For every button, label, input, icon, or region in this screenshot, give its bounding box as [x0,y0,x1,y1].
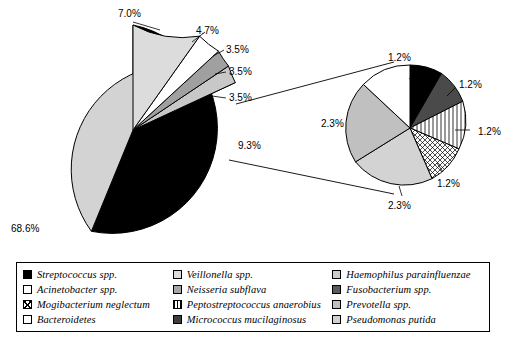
legend-swatch-acinetobacter [23,285,32,294]
sub-pie-value-label: 1.2% [459,79,482,90]
legend-swatch-bacteroidetes [23,315,32,324]
legend-item-bacteroidetes: Bacteroidetes [23,312,173,327]
legend-swatch-neisseria [173,285,182,294]
pie-value-label: 68.6% [11,223,39,234]
legend-item-pseudomonas: Pseudomonas putida [332,312,484,327]
legend-label: Peptostreptococcus anaerobius [187,299,321,310]
pie-value-label: 7.0% [118,8,141,19]
legend-swatch-haemophilus [332,270,341,279]
legend-row: Bacteroidetes Micrococcus mucilaginosus … [23,312,484,327]
legend-swatch-peptostreptococcus [173,300,182,309]
pie-value-label: 3.5% [229,92,252,103]
legend-item-fusobacterium: Fusobacterium spp. [332,282,484,297]
pie-charts-canvas: 7.0% 4.7% 3.5% 3.5% 3.5% 9.3% 68.6% 1.2%… [0,0,517,256]
legend-swatch-streptococcus [23,270,32,279]
legend-row: Mogibacterium neglectum Peptostreptococc… [23,297,484,312]
legend-label: Neisseria subflava [187,284,267,295]
legend-label: Prevotella spp. [346,299,411,310]
legend-swatch-micrococcus [173,315,182,324]
sub-pie-value-label: 1.2% [478,126,501,137]
sub-pie-value-label: 1.2% [388,52,411,63]
legend-item-micrococcus: Micrococcus mucilaginosus [173,312,333,327]
pie-value-label: 3.5% [229,66,252,77]
legend-label: Acinetobacter spp. [37,284,118,295]
legend-item-peptostreptococcus: Peptostreptococcus anaerobius [173,297,333,312]
legend-item-mogibacterium: Mogibacterium neglectum [23,297,173,312]
main-pie [71,25,235,233]
legend-item-prevotella: Prevotella spp. [332,297,484,312]
legend-label: Mogibacterium neglectum [37,299,150,310]
legend-swatch-fusobacterium [332,285,341,294]
sub-pie-value-label: 2.3% [388,200,411,211]
pie-svg [0,0,517,256]
legend-label: Fusobacterium spp. [346,284,431,295]
sub-pie-value-label: 1.2% [437,178,460,189]
sub-pie-value-label: 2.3% [321,118,344,129]
legend-item-acinetobacter: Acinetobacter spp. [23,282,173,297]
legend-swatch-veillonella [173,270,182,279]
legend-label: Micrococcus mucilaginosus [187,314,307,325]
legend-item-veillonella: Veillonella spp. [173,267,333,282]
legend: Streptococcus spp. Veillonella spp. Haem… [16,262,490,332]
legend-item-haemophilus: Haemophilus parainfluenzae [332,267,484,282]
legend-label: Veillonella spp. [187,269,253,280]
legend-label: Haemophilus parainfluenzae [346,269,470,280]
pie-value-label: 3.5% [226,44,249,55]
legend-item-streptococcus: Streptococcus spp. [23,267,173,282]
legend-label: Streptococcus spp. [37,269,117,280]
legend-row: Acinetobacter spp. Neisseria subflava Fu… [23,282,484,297]
figure-root: 7.0% 4.7% 3.5% 3.5% 3.5% 9.3% 68.6% 1.2%… [0,0,517,344]
legend-label: Bacteroidetes [37,314,96,325]
legend-swatch-prevotella [332,300,341,309]
exploded-pie [346,65,466,185]
legend-label: Pseudomonas putida [346,314,436,325]
legend-row: Streptococcus spp. Veillonella spp. Haem… [23,267,484,282]
legend-swatch-pseudomonas [332,315,341,324]
legend-item-neisseria: Neisseria subflava [173,282,333,297]
pie-value-label: 4.7% [196,25,219,36]
legend-swatch-mogibacterium [23,300,32,309]
pie-value-label: 9.3% [238,140,261,151]
